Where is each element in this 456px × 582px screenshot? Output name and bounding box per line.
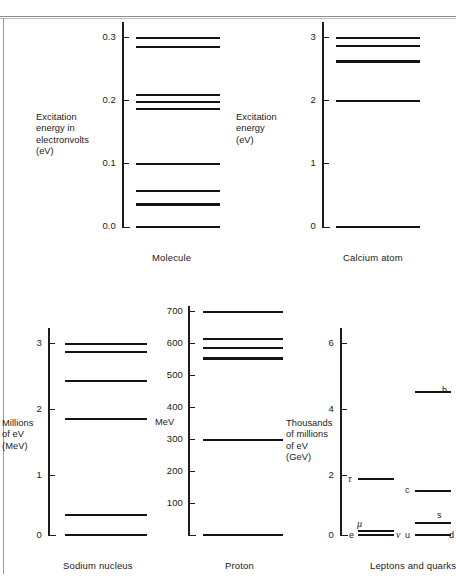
molecule-level-0.30	[136, 37, 220, 39]
leptons-caption: Leptons and quarks	[370, 561, 456, 571]
calcium-axis-line	[322, 22, 324, 228]
sodium-ticklabel-0: 0	[22, 530, 42, 540]
sodium-tick-1	[49, 475, 55, 477]
leptons-ticklabel-6: 6	[314, 338, 334, 348]
molecule-tick-0.2	[123, 100, 129, 102]
proton-level-600	[203, 338, 283, 340]
proton-ticklabel-600: 600	[151, 338, 183, 348]
calcium-axis-title: Excitation energy (eV)	[236, 112, 306, 146]
leptons-axis-title: Thousands of millions of eV (GeV)	[286, 418, 344, 464]
leptons-level-tau	[358, 478, 394, 480]
proton-axis-unit: MeV	[155, 418, 174, 428]
page-left-rule	[3, 18, 4, 574]
page-top-rule-shadow	[0, 18, 456, 19]
proton-ticklabel-500: 500	[151, 370, 183, 380]
leptons-level-s	[415, 522, 451, 524]
calcium-ticklabel-1: 1	[296, 158, 316, 168]
proton-tick-100	[189, 503, 195, 505]
sodium-ticklabel-3: 3	[22, 338, 42, 348]
calcium-level-2.87	[336, 45, 420, 47]
proton-ticklabel-100: 100	[151, 498, 183, 508]
particle-label-s: s	[437, 511, 442, 520]
proton-tick-200	[189, 471, 195, 473]
sodium-axis-foot	[48, 535, 56, 537]
leptons-ticklabel-2: 2	[314, 470, 334, 480]
calcium-tick-3	[323, 37, 329, 39]
molecule-ticklabel-0.0: 0.0	[84, 221, 116, 231]
calcium-axis-foot	[322, 227, 330, 229]
calcium-ticklabel-2: 2	[296, 95, 316, 105]
proton-tick-300	[189, 439, 195, 441]
leptons-level-c	[415, 490, 451, 492]
particle-label-d: d	[449, 531, 454, 540]
sodium-level-2.88	[65, 351, 147, 353]
proton-caption: Proton	[225, 561, 254, 571]
sodium-tick-3	[49, 343, 55, 345]
leptons-level-u-d	[415, 534, 451, 536]
proton-tick-600	[189, 343, 195, 345]
molecule-level-0.057	[136, 190, 220, 192]
sodium-level-0.00	[65, 534, 147, 536]
molecule-axis-line	[122, 22, 124, 228]
molecule-tick-0.3	[123, 37, 129, 39]
molecule-axis-title: Excitation energy in electronvolts (eV)	[36, 112, 116, 158]
leptons-level-mu	[358, 530, 394, 532]
proton-ticklabel-400: 400	[151, 402, 183, 412]
proton-level-0	[203, 534, 283, 536]
molecule-ticklabel-0.2: 0.2	[84, 95, 116, 105]
proton-ticklabel-300: 300	[151, 434, 183, 444]
proton-level-700	[203, 311, 283, 313]
calcium-level-2.63	[336, 60, 420, 62]
calcium-level-3.0	[336, 37, 420, 39]
sodium-axis-line	[48, 328, 50, 536]
calcium-level-2.0	[336, 100, 420, 102]
particle-label-u: u	[405, 531, 410, 540]
sodium-ticklabel-2: 2	[22, 404, 42, 414]
sodium-level-0.33	[65, 514, 147, 516]
calcium-level-0.0	[336, 226, 420, 228]
particle-label-e: e	[349, 531, 354, 540]
molecule-level-0.10	[136, 163, 220, 165]
leptons-level-e-nu	[358, 534, 394, 536]
sodium-level-1.83	[65, 418, 147, 420]
proton-tick-400	[189, 407, 195, 409]
proton-tick-700	[189, 311, 195, 313]
sodium-ticklabel-1: 1	[22, 470, 42, 480]
sodium-level-2.43	[65, 380, 147, 382]
page-top-rule	[0, 16, 456, 17]
proton-level-575	[203, 347, 283, 349]
calcium-tick-1	[323, 163, 329, 165]
sodium-caption: Sodium nucleus	[63, 561, 133, 571]
proton-axis-line	[188, 306, 190, 536]
sodium-tick-2	[49, 409, 55, 411]
leptons-ticklabel-0: 0	[314, 530, 334, 540]
molecule-level-0.20	[136, 101, 220, 103]
molecule-level-0.21	[136, 94, 220, 96]
page-title-partial	[60, 0, 400, 10]
sodium-level-3.00	[65, 343, 147, 345]
molecule-level-0.036	[136, 203, 220, 205]
proton-level-535	[203, 357, 283, 359]
proton-ticklabel-700: 700	[151, 306, 183, 316]
particle-label-mu: μ	[357, 519, 362, 528]
particle-label-tau: τ	[348, 474, 352, 483]
molecule-ticklabel-0.3: 0.3	[84, 32, 116, 42]
molecule-level-0.19	[136, 108, 220, 110]
molecule-tick-0.1	[123, 163, 129, 165]
calcium-tick-2	[323, 100, 329, 102]
proton-tick-500	[189, 375, 195, 377]
proton-axis-foot	[188, 535, 196, 537]
molecule-level-0.285	[136, 46, 220, 48]
calcium-ticklabel-3: 3	[296, 32, 316, 42]
leptons-axis-foot	[340, 535, 348, 537]
molecule-caption: Molecule	[152, 253, 191, 263]
proton-level-300	[203, 439, 283, 441]
molecule-axis-foot	[122, 227, 130, 229]
sodium-axis-title: Millions of eV (MeV)	[2, 418, 48, 452]
leptons-ticklabel-4: 4	[314, 404, 334, 414]
molecule-ticklabel-0.1: 0.1	[84, 158, 116, 168]
proton-ticklabel-200: 200	[151, 466, 183, 476]
molecule-level-0.00	[136, 226, 220, 228]
leptons-tick-6	[341, 343, 347, 345]
leptons-tick-2	[341, 475, 347, 477]
